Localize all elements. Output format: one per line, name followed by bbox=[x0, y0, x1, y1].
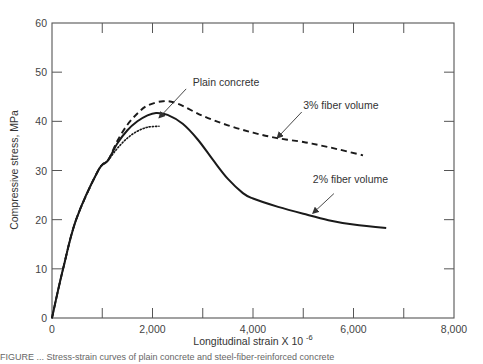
annotation-label: 3% fiber volume bbox=[303, 99, 378, 111]
y-axis-label: Compressive stress, MPa bbox=[8, 110, 20, 230]
x-tick-label: 4,000 bbox=[240, 323, 266, 335]
y-tick-label: 20 bbox=[35, 214, 47, 226]
plot-frame bbox=[52, 23, 454, 318]
annotations: Plain concrete3% fiber volume2% fiber vo… bbox=[159, 76, 388, 213]
annotation-label: 2% fiber volume bbox=[313, 173, 388, 185]
y-tick-label: 10 bbox=[35, 263, 47, 275]
y-tick-label: 30 bbox=[35, 165, 47, 177]
stress-strain-chart: 02,0004,0006,0008,000 0102030405060 Plai… bbox=[0, 0, 483, 364]
series-2-fiber-volume bbox=[52, 113, 386, 318]
y-tick-label: 60 bbox=[35, 17, 47, 29]
x-axis-label-exponent: -6 bbox=[306, 333, 313, 342]
y-tick-labels: 0102030405060 bbox=[35, 17, 47, 324]
annotation-arrow bbox=[159, 89, 186, 118]
axis-ticks bbox=[52, 23, 454, 318]
x-tick-label: 2,000 bbox=[139, 323, 165, 335]
series-lines bbox=[52, 101, 386, 318]
annotation-arrow bbox=[277, 112, 302, 138]
x-tick-label: 8,000 bbox=[441, 323, 467, 335]
x-axis-label: Longitudinal strain X 10 -6 bbox=[193, 333, 312, 347]
annotation-arrow bbox=[313, 194, 334, 214]
y-tick-label: 50 bbox=[35, 66, 47, 78]
x-tick-label: 6,000 bbox=[340, 323, 366, 335]
plot-border bbox=[52, 23, 454, 318]
series-plain-concrete bbox=[52, 126, 159, 318]
annotation-label: Plain concrete bbox=[193, 76, 260, 88]
x-tick-label: 0 bbox=[49, 323, 55, 335]
y-tick-label: 0 bbox=[41, 312, 47, 324]
y-tick-label: 40 bbox=[35, 115, 47, 127]
x-axis-label-text: Longitudinal strain X 10 bbox=[193, 335, 303, 347]
x-tick-labels: 02,0004,0006,0008,000 bbox=[49, 323, 467, 335]
figure-caption: FIGURE ... Stress-strain curves of plain… bbox=[0, 352, 483, 364]
